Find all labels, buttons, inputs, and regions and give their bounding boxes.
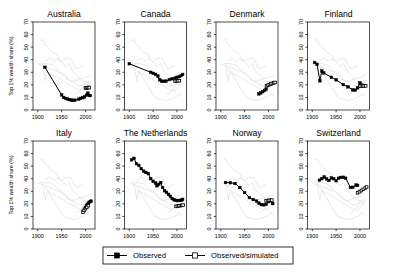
data-point-simulated bbox=[365, 186, 368, 189]
panel-title: Australia bbox=[47, 9, 81, 19]
y-tick-label: 30 bbox=[206, 69, 212, 75]
y-tick-label: 50 bbox=[115, 163, 121, 169]
y-tick-label: 10 bbox=[298, 94, 304, 100]
data-point-simulated bbox=[88, 86, 91, 89]
x-tick-label: 1950 bbox=[147, 233, 159, 239]
data-point-observed bbox=[44, 66, 47, 69]
data-point-observed bbox=[335, 179, 338, 182]
series-observed-simulated bbox=[84, 86, 90, 89]
y-tick-label: 10 bbox=[115, 94, 121, 100]
y-tick-label: 40 bbox=[23, 57, 29, 63]
y-axis: 010203040506070 bbox=[298, 138, 308, 231]
y-tick-label: 70 bbox=[298, 19, 304, 25]
y-tick-label: 70 bbox=[298, 138, 304, 144]
x-axis: 190019502000 bbox=[32, 229, 92, 239]
y-tick-label: 0 bbox=[206, 109, 212, 112]
y-axis: 010203040506070 bbox=[23, 138, 33, 231]
data-point-simulated bbox=[364, 85, 367, 88]
series-observed bbox=[258, 88, 268, 95]
data-point-observed bbox=[229, 181, 232, 184]
x-tick-label: 1900 bbox=[32, 233, 44, 239]
data-point-observed bbox=[248, 196, 251, 199]
x-tick-label: 1900 bbox=[215, 233, 227, 239]
y-tick-label: 50 bbox=[23, 44, 29, 50]
x-tick-label: 1950 bbox=[56, 233, 68, 239]
series-observed-simulated bbox=[359, 85, 367, 88]
y-tick-label: 50 bbox=[23, 163, 29, 169]
panel-title: Finland bbox=[324, 9, 352, 19]
data-point-observed bbox=[316, 63, 319, 66]
y-tick-label: 20 bbox=[206, 82, 212, 88]
series-observed-simulated bbox=[82, 204, 90, 213]
x-tick-label: 1900 bbox=[123, 114, 135, 120]
x-tick-label: 1950 bbox=[239, 233, 251, 239]
series-observed bbox=[318, 176, 359, 189]
y-axis: 010203040506070 bbox=[206, 138, 216, 231]
y-tick-label: 40 bbox=[206, 57, 212, 63]
x-tick-label: 1900 bbox=[306, 233, 318, 239]
x-tick-label: 2000 bbox=[354, 114, 366, 120]
y-axis: 010203040506070 bbox=[206, 19, 216, 112]
panel-australia: 010203040506070190019502000AustraliaTop … bbox=[8, 9, 95, 120]
y-tick-label: 20 bbox=[298, 82, 304, 88]
y-tick-label: 40 bbox=[23, 176, 29, 182]
x-tick-label: 1950 bbox=[330, 114, 342, 120]
data-point-observed bbox=[140, 167, 143, 170]
data-point-observed bbox=[319, 80, 322, 83]
data-point-observed bbox=[224, 181, 227, 184]
x-tick-label: 2000 bbox=[262, 114, 274, 120]
y-tick-label: 30 bbox=[298, 188, 304, 194]
data-point-observed bbox=[165, 80, 168, 83]
panel-title: Canada bbox=[140, 9, 170, 19]
data-series-group bbox=[130, 157, 184, 208]
data-point-observed bbox=[154, 182, 157, 185]
y-axis-title: Top 1% wealth share (%) bbox=[8, 155, 14, 214]
y-tick-label: 10 bbox=[206, 213, 212, 219]
x-axis: 190019502000 bbox=[32, 110, 92, 120]
y-tick-label: 50 bbox=[115, 44, 121, 50]
panel-title: Denmark bbox=[230, 9, 266, 19]
series-observed-simulated bbox=[174, 79, 181, 82]
panel-title: Norway bbox=[232, 128, 262, 138]
data-point-observed bbox=[335, 79, 338, 82]
x-axis: 190019502000 bbox=[123, 229, 183, 239]
data-point-observed bbox=[181, 198, 184, 201]
legend-label: Observed bbox=[133, 251, 166, 260]
data-point-simulated bbox=[87, 204, 90, 207]
x-tick-label: 2000 bbox=[262, 233, 274, 239]
x-axis: 190019502000 bbox=[306, 110, 366, 120]
y-tick-label: 30 bbox=[298, 69, 304, 75]
y-tick-label: 30 bbox=[206, 188, 212, 194]
plot-frame bbox=[216, 141, 278, 229]
y-tick-label: 10 bbox=[298, 213, 304, 219]
data-point-observed bbox=[74, 99, 77, 102]
data-point-observed bbox=[149, 177, 152, 180]
y-tick-label: 70 bbox=[206, 138, 212, 144]
y-tick-label: 40 bbox=[298, 176, 304, 182]
y-tick-label: 40 bbox=[115, 176, 121, 182]
data-point-simulated bbox=[271, 199, 274, 202]
x-tick-label: 2000 bbox=[79, 114, 91, 120]
panel-italy: 010203040506070190019502000ItalyTop 1% w… bbox=[8, 128, 95, 239]
data-point-observed bbox=[171, 78, 174, 81]
x-tick-label: 1900 bbox=[215, 114, 227, 120]
y-tick-label: 10 bbox=[115, 213, 121, 219]
legend-marker-open-square bbox=[192, 253, 197, 258]
legend-label: Observed/simulated bbox=[211, 251, 279, 260]
y-tick-label: 70 bbox=[206, 19, 212, 25]
x-axis: 190019502000 bbox=[123, 110, 183, 120]
y-tick-label: 10 bbox=[206, 94, 212, 100]
y-tick-label: 30 bbox=[23, 69, 29, 75]
data-point-observed bbox=[138, 164, 141, 167]
y-tick-label: 60 bbox=[23, 32, 29, 38]
y-tick-label: 50 bbox=[206, 44, 212, 50]
panel-title: The Netherlands bbox=[124, 128, 188, 138]
data-point-observed bbox=[147, 172, 150, 175]
panel-title: Italy bbox=[56, 128, 72, 138]
data-point-simulated bbox=[182, 204, 185, 207]
data-point-observed bbox=[161, 186, 164, 189]
background-reference-series bbox=[129, 39, 182, 100]
legend-marker-filled-square bbox=[114, 253, 119, 258]
y-tick-label: 60 bbox=[206, 151, 212, 157]
y-tick-label: 50 bbox=[298, 163, 304, 169]
